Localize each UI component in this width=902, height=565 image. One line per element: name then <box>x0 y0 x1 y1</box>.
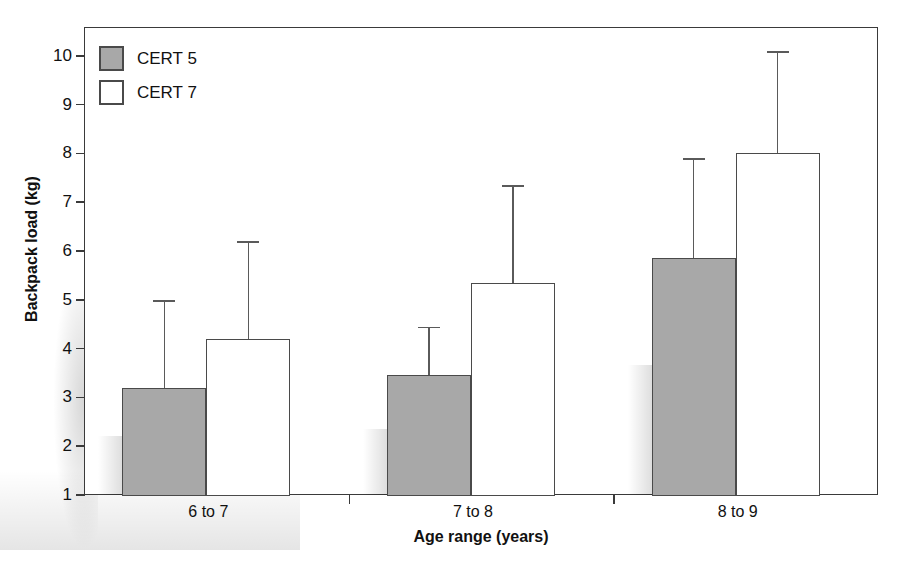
error-bar-cap <box>683 158 705 160</box>
y-tick-mark <box>76 397 85 399</box>
error-bar-cap <box>502 185 524 187</box>
error-bar-cap <box>767 51 789 53</box>
bar-cert7 <box>206 339 290 496</box>
y-tick-mark <box>76 299 85 301</box>
y-tick-label: 7 <box>38 193 72 210</box>
y-tick-mark <box>76 104 85 106</box>
y-tick-label: 4 <box>38 340 72 357</box>
legend-label-cert7: CERT 7 <box>137 84 197 101</box>
bar-cert5 <box>122 388 206 496</box>
y-tick-mark <box>76 250 85 252</box>
bar-cert5 <box>652 258 736 496</box>
legend-item-cert5: CERT 5 <box>99 43 197 73</box>
y-tick-mark <box>76 201 85 203</box>
y-tick-label: 6 <box>38 242 72 259</box>
legend-item-cert7: CERT 7 <box>99 77 197 107</box>
error-bar-cap <box>153 300 175 302</box>
y-tick-label: 10 <box>38 47 72 64</box>
bar-cert7 <box>471 283 555 496</box>
x-tick-mark <box>613 495 615 504</box>
y-tick-mark <box>76 494 85 496</box>
y-tick-label: 1 <box>38 486 72 503</box>
y-tick-mark <box>76 445 85 447</box>
error-bar-cap <box>418 327 440 329</box>
x-tick-label: 6 to 7 <box>188 503 228 521</box>
error-bar-stem <box>777 51 779 153</box>
legend-swatch-cert5-icon <box>99 46 124 71</box>
y-tick-label: 8 <box>38 144 72 161</box>
bar-cert7 <box>736 153 820 496</box>
y-tick-mark <box>76 55 85 57</box>
y-tick-label: 5 <box>38 291 72 308</box>
x-tick-label: 8 to 9 <box>718 503 758 521</box>
x-tick-label: 7 to 8 <box>453 503 493 521</box>
legend-swatch-cert7-icon <box>99 80 124 105</box>
y-tick-label: 3 <box>38 388 72 405</box>
y-tick-mark <box>76 153 85 155</box>
y-tick-mark <box>76 348 85 350</box>
bar-chart-figure: Backpack load (kg) 12345678910 6 to 77 t… <box>0 0 902 565</box>
chart-legend: CERT 5 CERT 7 <box>99 43 197 111</box>
error-bar-stem <box>248 241 250 339</box>
bar-cert5 <box>387 375 471 496</box>
error-bar-stem <box>512 185 514 283</box>
y-tick-label: 9 <box>38 96 72 113</box>
error-bar-stem <box>693 158 695 258</box>
error-bar-stem <box>428 327 430 376</box>
y-tick-label: 2 <box>38 437 72 454</box>
legend-label-cert5: CERT 5 <box>137 50 197 67</box>
error-bar-stem <box>164 300 166 388</box>
error-bar-cap <box>237 241 259 243</box>
x-axis-label: Age range (years) <box>84 528 878 546</box>
x-tick-mark <box>349 495 351 504</box>
